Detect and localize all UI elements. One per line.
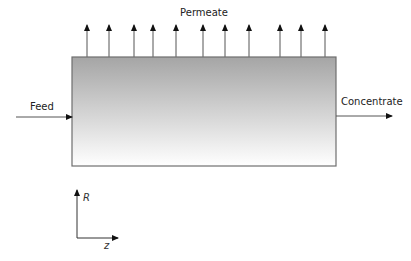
- membrane-module: [72, 57, 336, 166]
- membrane-diagram: Permeate Feed Concentrate R z: [0, 0, 411, 261]
- r-axis-label: R: [83, 192, 90, 203]
- feed-label: Feed: [30, 101, 54, 112]
- concentrate-label: Concentrate: [341, 96, 403, 107]
- permeate-arrows: [87, 25, 325, 57]
- z-axis-label: z: [103, 240, 110, 251]
- permeate-label: Permeate: [180, 7, 228, 18]
